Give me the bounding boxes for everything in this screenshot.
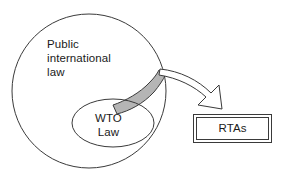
wto-law-label: WTO Law — [95, 111, 122, 139]
rtas-label: RTAs — [193, 121, 272, 135]
diagram-canvas: Public international law WTO Law RTAs — [0, 0, 285, 185]
public-international-law-label: Public international law — [47, 37, 111, 79]
diagram-graphics — [0, 0, 285, 185]
curved-block-arrow — [159, 69, 222, 109]
overlap-band-shape — [113, 70, 166, 114]
